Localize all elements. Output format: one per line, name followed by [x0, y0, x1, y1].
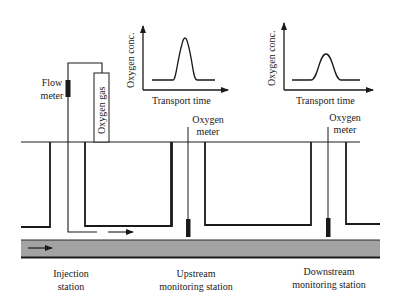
upstream-meter-label-line2: meter: [197, 126, 220, 137]
downstream-meter-label-line1: Oxygen: [329, 112, 361, 123]
upstream-graph-ylabel: Oxygen conc.: [125, 32, 136, 88]
manhole-wall-right: [85, 142, 172, 226]
downstream-meter-label-line2: meter: [334, 124, 357, 135]
sewer-pipe: [21, 240, 380, 258]
upstream-graph: Oxygen conc. Transport time: [125, 26, 228, 106]
flow-meter-label-line2: meter: [41, 90, 64, 101]
downstream-graph: Oxygen conc. Transport time: [266, 23, 373, 106]
upstream-monitoring-station: Oxygen meter: [171, 114, 258, 237]
sewer-oxygen-injection-diagram: Oxygen conc. Transport time Oxygen conc.…: [0, 0, 398, 304]
oxygen-meter-sensor-icon: [186, 219, 191, 237]
upstream-station-label-line2: monitoring station: [159, 281, 233, 292]
oxygen-meter-sensor-icon: [326, 218, 331, 237]
manhole-wall: [258, 142, 311, 225]
oxygen-gas-label: Oxygen gas: [96, 86, 107, 134]
upstream-meter-label-line1: Oxygen: [192, 114, 224, 125]
upstream-station-label-line1: Upstream: [177, 268, 216, 279]
flow-meter-icon: [66, 80, 71, 97]
downstream-station-label-line1: Downstream: [303, 266, 354, 277]
flow-meter-label-line1: Flow: [42, 77, 63, 88]
injection-station: Oxygen gas Flow meter: [21, 63, 172, 232]
manhole-wall-left: [21, 142, 50, 227]
manhole-wall-right: [346, 142, 380, 224]
wide-peak-curve: [292, 54, 360, 80]
downstream-graph-ylabel: Oxygen conc.: [266, 30, 277, 86]
downstream-graph-xlabel: Transport time: [296, 95, 355, 106]
pipe-body: [21, 240, 380, 257]
downstream-station-label-line2: monitoring station: [292, 279, 366, 290]
manhole-wall-right: [205, 142, 258, 225]
injection-station-label-line2: station: [58, 281, 85, 292]
narrow-peak-curve: [152, 38, 215, 80]
downstream-monitoring-station: Oxygen meter: [326, 112, 380, 237]
injection-station-label-line1: Injection: [53, 268, 89, 279]
upstream-graph-xlabel: Transport time: [152, 95, 211, 106]
